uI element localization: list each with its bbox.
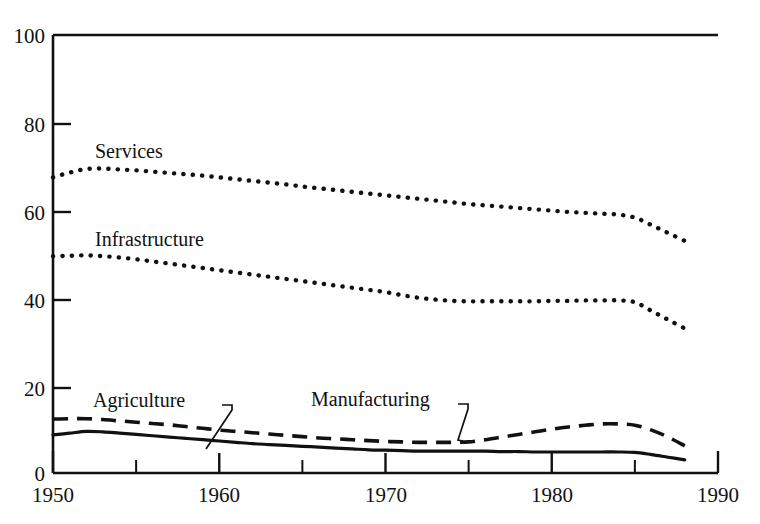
chart-container: 100 80 60 40 20 0 1950 1960 1970 1980 19… (0, 0, 760, 524)
series-label-agriculture: Agriculture (93, 389, 185, 412)
series-line-agriculture (53, 431, 685, 460)
line-chart: 100 80 60 40 20 0 1950 1960 1970 1980 19… (0, 0, 760, 524)
series-label-services: Services (95, 140, 163, 162)
series-layer (53, 169, 685, 460)
series-label-infrastructure: Infrastructure (95, 228, 204, 250)
y-tick-label-60: 60 (24, 201, 45, 225)
y-tick-label-20: 20 (24, 377, 45, 401)
series-label-manufacturing: Manufacturing (311, 388, 430, 411)
series-line-infrastructure (53, 255, 685, 328)
series-line-manufacturing (53, 419, 685, 446)
x-tick-label-1950: 1950 (32, 483, 74, 507)
x-tick-label-1960: 1960 (198, 483, 240, 507)
manufacturing-leader-line (458, 404, 468, 441)
x-tick-label-1980: 1980 (531, 483, 573, 507)
y-tick-label-80: 80 (24, 113, 45, 137)
x-tick-label-1970: 1970 (365, 483, 407, 507)
x-tick-label-1990: 1990 (697, 483, 739, 507)
x-tick-marks (53, 451, 718, 473)
y-tick-label-40: 40 (24, 289, 45, 313)
y-tick-label-100: 100 (14, 24, 46, 48)
